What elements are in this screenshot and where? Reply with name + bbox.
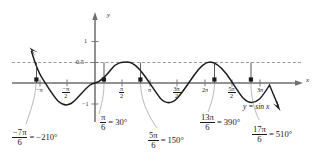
leader-neg-7pi-6	[26, 84, 36, 124]
x-tick-label-pi: π	[148, 87, 151, 93]
x-tick-text: π	[148, 86, 151, 93]
curve-left-arrowhead	[30, 48, 39, 57]
callout-degrees: 150°	[168, 136, 184, 145]
y-axis-arrowhead	[92, 12, 97, 20]
leader-pi-6	[99, 84, 104, 114]
callout-17pi-6: 17π 6 = 510°	[252, 125, 292, 144]
x-axis-label: x	[306, 77, 309, 84]
callout-equals: =	[108, 118, 113, 127]
leader-13pi-6	[208, 84, 215, 112]
marker-pi-6	[102, 77, 106, 81]
y-tick-label-1: 1	[84, 38, 87, 44]
y-tick-label-neg-1: −1	[82, 101, 89, 107]
callout-degrees: 30°	[115, 118, 127, 127]
x-tick-den: 2	[62, 92, 71, 99]
x-tick-den: 2	[119, 92, 124, 99]
callout-equals: =	[161, 136, 166, 145]
curve-equation-label: y = sin x	[243, 103, 269, 111]
x-tick-den: 2	[173, 92, 181, 99]
callout-den: 6	[200, 122, 215, 132]
callout-pi-6: π 6 = 30°	[100, 113, 127, 132]
x-tick-label-neg-pi: −π	[36, 87, 43, 93]
x-tick-text: −π	[36, 86, 43, 93]
y-axis-label: y	[107, 12, 110, 19]
callout-13pi-6: 13π 6 = 390°	[200, 113, 240, 132]
callout-num: 13π	[200, 113, 215, 122]
callout-num: 5π	[148, 131, 159, 140]
callout-num: 17π	[252, 125, 267, 134]
x-tick-label-5pi-over-2: 5π 2	[228, 86, 236, 100]
x-tick-text: 2π	[202, 86, 208, 93]
marker-13pi-6	[212, 77, 216, 81]
x-tick-den: 2	[228, 92, 236, 99]
x-tick-label-neg-pi-over-2: −π 2	[62, 86, 71, 100]
x-tick-label-pi-over-2: π 2	[119, 86, 124, 100]
marker-17pi-6	[249, 77, 253, 81]
callout-equals: =	[29, 133, 34, 142]
x-tick-text: 3π	[257, 86, 263, 93]
callout-den: 6	[100, 122, 106, 132]
callout-degrees: 390°	[224, 118, 240, 127]
x-tick-label-2pi: 2π	[202, 87, 208, 93]
y-tick-label-0-5: 0.5	[76, 59, 84, 65]
callout-equals: =	[217, 118, 222, 127]
marker-neg-7pi-6	[34, 77, 38, 81]
callout-num: π	[100, 113, 106, 122]
callout-degrees: −210°	[36, 133, 57, 142]
callout-den: 6	[252, 134, 267, 144]
x-tick-label-3pi: 3π	[257, 87, 263, 93]
callout-den: 6	[12, 137, 27, 147]
marker-5pi-6	[138, 77, 142, 81]
x-tick-label-3pi-over-2: 3π 2	[173, 86, 181, 100]
callout-den: 6	[148, 140, 159, 150]
callout-equals: =	[269, 130, 274, 139]
x-axis-arrowhead	[295, 80, 303, 85]
callout-5pi-6: 5π 6 = 150°	[148, 131, 184, 150]
callout-degrees: 510°	[276, 130, 292, 139]
callout-num: −7π	[12, 128, 27, 137]
callout-neg-7pi-6: −7π 6 = −210°	[12, 128, 58, 147]
